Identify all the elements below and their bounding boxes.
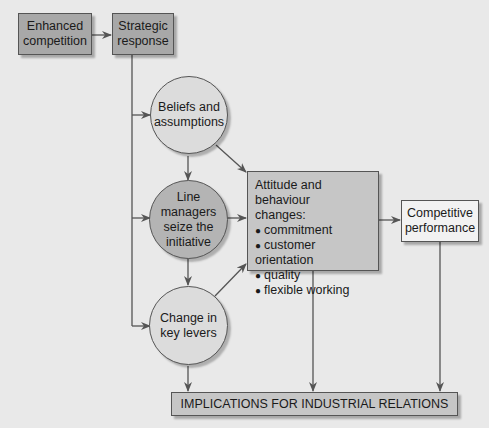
beliefs-assumptions-circle: Beliefs and assumptions — [150, 76, 228, 154]
enhanced-competition-line1: Enhanced — [23, 19, 87, 34]
attitude-title-line2: changes: — [255, 208, 372, 223]
line-managers-line4: initiative — [161, 235, 217, 250]
enhanced-competition-line2: competition — [23, 34, 87, 49]
key-levers-line1: Change in — [160, 311, 217, 326]
enhanced-competition-box: Enhanced competition — [18, 13, 92, 55]
beliefs-line2: assumptions — [154, 115, 224, 130]
key-levers-circle: Change in key levers — [149, 286, 228, 365]
line-managers-line3: seize the — [161, 220, 217, 235]
attitude-behaviour-box: Attitude and behaviour changes: commitme… — [247, 171, 379, 271]
attitude-bullet-list: commitment customer orientation quality … — [255, 223, 372, 298]
attitude-item: flexible working — [255, 283, 372, 298]
implications-box: IMPLICATIONS FOR INDUSTRIAL RELATIONS — [171, 392, 458, 416]
strategic-response-line2: response — [117, 34, 168, 49]
attitude-item: customer orientation — [255, 238, 372, 268]
attitude-title-line1: Attitude and behaviour — [255, 178, 372, 208]
line-managers-line2: managers — [161, 205, 217, 220]
attitude-item: commitment — [255, 223, 372, 238]
beliefs-line1: Beliefs and — [154, 100, 224, 115]
strategic-response-line1: Strategic — [117, 19, 168, 34]
competitive-line2: performance — [405, 221, 475, 236]
implications-label: IMPLICATIONS FOR INDUSTRIAL RELATIONS — [181, 397, 449, 411]
competitive-performance-box: Competitive performance — [401, 200, 479, 242]
line-managers-circle: Line managers seize the initiative — [149, 180, 228, 259]
strategic-response-box: Strategic response — [112, 13, 174, 55]
line-managers-line1: Line — [161, 190, 217, 205]
key-levers-line2: key levers — [160, 326, 217, 341]
attitude-item: quality — [255, 268, 372, 283]
competitive-line1: Competitive — [405, 206, 475, 221]
